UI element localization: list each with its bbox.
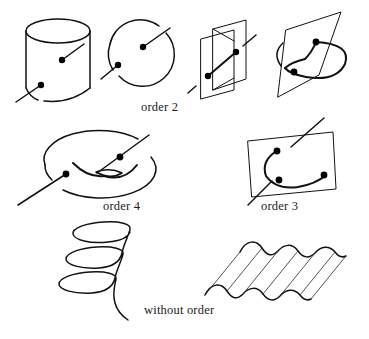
corrugated-ridge-7 bbox=[311, 256, 346, 299]
circle-arc-left bbox=[108, 44, 113, 70]
plane-with-curve-axis-upper bbox=[291, 118, 324, 147]
figure-cylinder bbox=[16, 19, 90, 102]
figure-disk-with-curve bbox=[18, 130, 156, 205]
cylinder-bottom-arc-right bbox=[44, 88, 90, 101]
disk-axis-lower-dot bbox=[63, 171, 70, 178]
corrugated-ridge-1 bbox=[205, 252, 240, 295]
plane-with-curve-dot-upper bbox=[274, 148, 281, 155]
caption-order-2: order 2 bbox=[141, 100, 178, 115]
cylinder-top-ellipse bbox=[26, 19, 90, 43]
circle-axis-upper bbox=[143, 28, 170, 47]
disk-axis-lower bbox=[18, 174, 66, 205]
corrugated-ridge-3 bbox=[243, 251, 278, 294]
plane-with-curve-dot-middle bbox=[276, 177, 283, 184]
plane-with-curve-curve bbox=[265, 152, 326, 188]
cylinder-axis-lower-dot bbox=[38, 82, 44, 88]
helix-coil bbox=[59, 222, 130, 320]
corrugated-ridge-2 bbox=[227, 248, 262, 291]
corrugated-ridge-5 bbox=[280, 253, 315, 296]
caption-without-order: without order bbox=[144, 303, 214, 318]
disk-axis-upper-dot bbox=[117, 154, 124, 161]
caption-order-3: order 3 bbox=[261, 199, 298, 214]
corrugated-ridge-4 bbox=[263, 251, 298, 294]
corrugated-far-edge bbox=[240, 242, 346, 257]
figure-sheet: order 2 order 4 order 3 without order bbox=[0, 0, 369, 339]
crossed-planes-axis-dot-lower bbox=[205, 73, 211, 79]
disk-outer-arc-top bbox=[44, 130, 138, 165]
orbifold-diagram-svg bbox=[0, 0, 369, 339]
disk-axis-upper bbox=[97, 135, 149, 173]
figure-helix bbox=[59, 222, 130, 320]
plane-with-curve-dot-right bbox=[321, 172, 328, 179]
circle-axis-lower-dot bbox=[115, 62, 121, 68]
figure-plane-with-curve bbox=[248, 118, 336, 205]
crossed-planes-back-plane bbox=[213, 20, 246, 90]
crossed-planes-axis-dot-upper bbox=[233, 49, 239, 55]
crossed-planes-axis-tail-upper bbox=[243, 35, 256, 46]
figure-plane-and-circle bbox=[277, 12, 346, 97]
caption-order-4: order 4 bbox=[103, 199, 140, 214]
crossed-planes-axis-tail-lower bbox=[188, 86, 196, 93]
circle-axis-upper-dot bbox=[140, 44, 146, 50]
corrugated-ridge-6 bbox=[300, 252, 335, 295]
plane-and-circle-dot-lower bbox=[291, 69, 298, 76]
plane-and-circle-loop-back bbox=[285, 59, 305, 68]
circle-arc-bottom-right bbox=[119, 33, 174, 86]
figure-crossed-planes bbox=[188, 20, 256, 99]
crossed-planes-axis bbox=[208, 52, 236, 76]
cylinder-axis-upper-dot bbox=[59, 57, 65, 63]
figure-circle bbox=[101, 20, 174, 87]
cylinder-axis-upper bbox=[62, 44, 84, 60]
circle-axis-lower bbox=[101, 65, 118, 79]
disk-outer-arc-left bbox=[45, 165, 52, 180]
corrugated-near-edge bbox=[205, 285, 311, 300]
figure-corrugated-surface bbox=[205, 242, 346, 300]
plane-and-circle-dot-upper bbox=[313, 39, 320, 46]
